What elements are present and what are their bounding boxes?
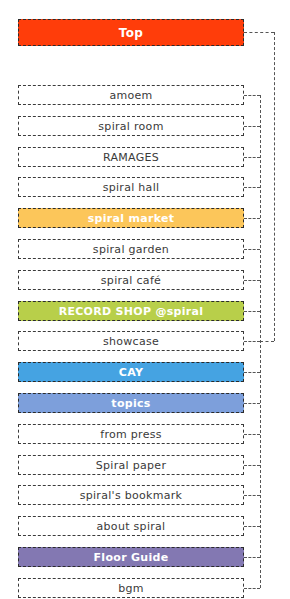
node-label: Top bbox=[119, 26, 143, 40]
node-spiral-market[interactable]: spiral market bbox=[18, 208, 244, 228]
node-label: topics bbox=[111, 397, 150, 410]
node-spiral-room[interactable]: spiral room bbox=[18, 116, 244, 136]
connector-branch bbox=[244, 280, 260, 281]
node-label: RAMAGES bbox=[103, 151, 159, 164]
connector-branch bbox=[244, 465, 260, 466]
connector-branch bbox=[244, 311, 260, 312]
node-from-press[interactable]: from press bbox=[18, 424, 244, 444]
node-spiral-caf[interactable]: spiral café bbox=[18, 270, 244, 290]
node-label: showcase bbox=[103, 335, 159, 348]
connector-branch bbox=[244, 526, 260, 527]
node-label: from press bbox=[100, 428, 162, 441]
node-label: spiral garden bbox=[93, 243, 169, 256]
node-label: amoem bbox=[109, 89, 152, 102]
node-label: Spiral paper bbox=[96, 459, 166, 472]
node-top[interactable]: Top bbox=[18, 19, 244, 46]
connector-top-join bbox=[260, 341, 274, 342]
connector-branch bbox=[244, 249, 260, 250]
connector-branch bbox=[244, 495, 260, 496]
node-label: bgm bbox=[118, 582, 144, 595]
node-label: spiral café bbox=[101, 274, 161, 287]
connector-branch bbox=[244, 218, 260, 219]
node-label: Floor Guide bbox=[94, 551, 169, 564]
connector-branch bbox=[244, 588, 260, 589]
node-label: spiral room bbox=[98, 120, 163, 133]
connector-branch bbox=[244, 557, 260, 558]
node-spiral-hall[interactable]: spiral hall bbox=[18, 177, 244, 197]
node-showcase[interactable]: showcase bbox=[18, 331, 244, 351]
node-topics[interactable]: topics bbox=[18, 393, 244, 413]
node-ramages[interactable]: RAMAGES bbox=[18, 147, 244, 167]
node-label: spiral hall bbox=[103, 181, 160, 194]
node-label: spiral market bbox=[88, 212, 175, 225]
connector-branch bbox=[244, 95, 260, 96]
node-label: about spiral bbox=[97, 520, 166, 533]
node-about-spiral[interactable]: about spiral bbox=[18, 516, 244, 536]
connector-branch bbox=[244, 403, 260, 404]
connector-branch bbox=[244, 157, 260, 158]
node-label: CAY bbox=[119, 366, 143, 379]
connector-top-branch bbox=[244, 32, 274, 33]
node-record-shop-spiral[interactable]: RECORD SHOP @spiral bbox=[18, 301, 244, 321]
node-label: spiral's bookmark bbox=[80, 489, 183, 502]
node-spiral-garden[interactable]: spiral garden bbox=[18, 239, 244, 259]
connector-branch bbox=[244, 434, 260, 435]
node-spiral-s-bookmark[interactable]: spiral's bookmark bbox=[18, 485, 244, 505]
node-amoem[interactable]: amoem bbox=[18, 85, 244, 105]
connector-branch bbox=[244, 372, 260, 373]
node-floor-guide[interactable]: Floor Guide bbox=[18, 547, 244, 567]
node-label: RECORD SHOP @spiral bbox=[59, 305, 204, 318]
connector-branch bbox=[244, 126, 260, 127]
node-cay[interactable]: CAY bbox=[18, 362, 244, 382]
connector-branch bbox=[244, 341, 260, 342]
connector-branch bbox=[244, 187, 260, 188]
connector-top-trunk bbox=[274, 32, 275, 341]
node-bgm[interactable]: bgm bbox=[18, 578, 244, 598]
node-spiral-paper[interactable]: Spiral paper bbox=[18, 455, 244, 475]
